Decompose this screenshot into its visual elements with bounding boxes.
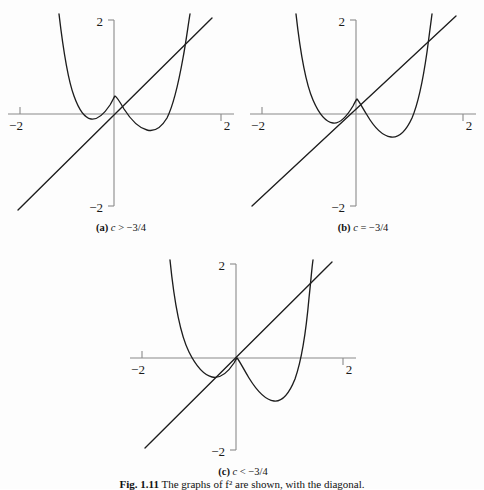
panel-b-caption: (b) c = −3/4: [242, 222, 484, 234]
panel-a-caption-tag: (a): [96, 222, 108, 233]
panel-b-caption-relation: = −3/4: [360, 222, 388, 233]
x-min-label: −2: [131, 362, 145, 377]
figure-caption-label: Fig. 1.11: [119, 478, 158, 490]
panel-c-caption: (c) c < −3/4: [122, 466, 364, 478]
x-min-label: −2: [9, 118, 23, 133]
second-iterate-curve-b: [296, 14, 432, 137]
y-min-label: −2: [331, 200, 345, 215]
panel-c-axes: [130, 264, 356, 450]
panel-c-caption-math: c: [233, 466, 238, 477]
x-max-label: 2: [224, 118, 231, 133]
panel-b-axes: [250, 20, 476, 206]
second-iterate-curve-a: [59, 14, 190, 131]
panel-b-plot: 2 −2 −2 2: [242, 6, 484, 221]
figure-caption-text: The graphs of f² are shown, with the dia…: [161, 478, 364, 490]
panel-b-caption-tag: (b): [338, 222, 351, 233]
panel-c-plot: 2 −2 −2 2: [122, 252, 364, 467]
x-min-label: −2: [251, 118, 265, 133]
panel-a: 2 −2 −2 2 (a) c > −3/4: [0, 6, 242, 242]
y-max-label: 2: [339, 14, 346, 29]
panel-b: 2 −2 −2 2 (b) c = −3/4: [242, 6, 484, 242]
x-max-label: 2: [346, 362, 353, 377]
panel-a-caption-math: c: [111, 222, 116, 233]
x-max-label: 2: [466, 118, 473, 133]
panel-a-caption-relation: > −3/4: [118, 222, 146, 233]
panel-a-axes: [8, 20, 234, 206]
y-max-label: 2: [97, 14, 104, 29]
panel-c-caption-tag: (c): [218, 466, 230, 477]
y-min-label: −2: [211, 444, 225, 459]
panel-a-plot: 2 −2 −2 2: [0, 6, 242, 221]
panel-b-caption-math: c: [353, 222, 358, 233]
panel-a-caption: (a) c > −3/4: [0, 222, 242, 234]
y-min-label: −2: [89, 200, 103, 215]
panel-c-caption-relation: < −3/4: [240, 466, 268, 477]
diagonal-line-b: [252, 16, 456, 206]
figure-caption: Fig. 1.11 The graphs of f² are shown, wi…: [0, 478, 484, 490]
panel-c: 2 −2 −2 2 (c) c < −3/4: [122, 252, 364, 488]
second-iterate-curve-c: [170, 260, 313, 401]
y-max-label: 2: [219, 258, 226, 273]
